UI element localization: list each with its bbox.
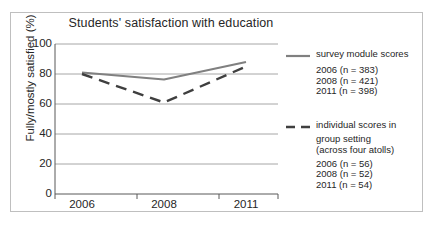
figure: Students' satisfaction with education Fu… (0, 0, 433, 234)
series-individual-scores-group-setting (82, 67, 246, 103)
solid-line-icon (286, 50, 310, 62)
legend-label-individual-scores-line1: individual scores in (310, 119, 396, 131)
legend-block-individual-scores: individual scores in group setting (acro… (286, 119, 418, 191)
legend-note: 2011 (n = 54) (316, 180, 418, 191)
legend-spacer (286, 97, 418, 119)
legend-label-survey-module-scores: survey module scores (310, 48, 408, 60)
legend-entry-individual-scores: individual scores in (286, 119, 418, 133)
x-axis-ticks (55, 194, 278, 199)
gridlines (55, 44, 278, 194)
legend-entry-survey-module-scores: survey module scores (286, 48, 418, 62)
legend-block-survey-module-scores: survey module scores 2006 (n = 383) 2008… (286, 48, 418, 97)
legend-note: 2008 (n = 52) (316, 169, 418, 180)
legend-note: 2011 (n = 398) (316, 86, 418, 97)
legend-label-individual-scores-line2: group setting (286, 133, 418, 145)
legend-note: 2006 (n = 383) (316, 65, 418, 76)
legend-label-individual-scores-line3: (across four atolls) (286, 144, 418, 156)
legend-notes-survey-module-scores: 2006 (n = 383) 2008 (n = 421) 2011 (n = … (286, 65, 418, 97)
legend-notes-individual-scores: 2006 (n = 56) 2008 (n = 52) 2011 (n = 54… (286, 159, 418, 191)
dashed-line-icon (286, 121, 310, 133)
legend: survey module scores 2006 (n = 383) 2008… (286, 48, 418, 190)
